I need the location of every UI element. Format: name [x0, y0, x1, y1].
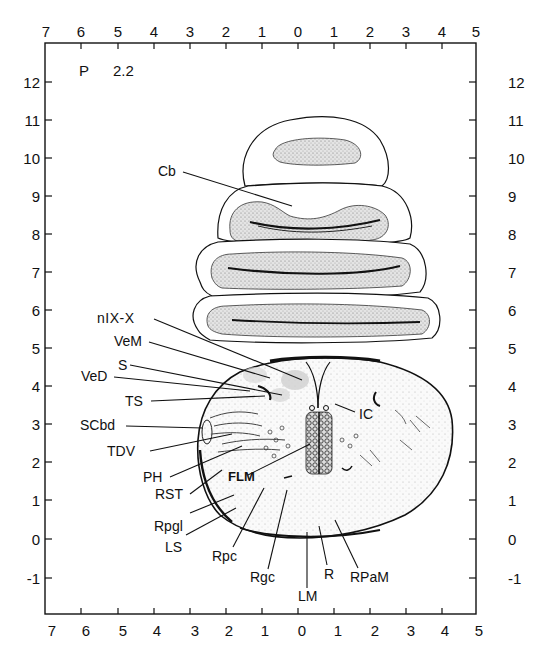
label-s: S [118, 358, 127, 372]
left-ticks [45, 82, 52, 578]
top-tick-label: 6 [77, 24, 85, 39]
top-tick-label: 5 [114, 24, 122, 39]
label-ts: TS [125, 394, 143, 408]
brainstem-section [198, 357, 453, 538]
bottom-tick-label: 5 [119, 623, 127, 638]
top-tick-label: 4 [150, 24, 158, 39]
right-tick-label: -1 [508, 571, 538, 586]
bottom-tick-label: 5 [475, 623, 483, 638]
bottom-tick-label: 3 [191, 623, 199, 638]
top-tick-label: 3 [186, 24, 194, 39]
bottom-tick-label: 0 [298, 623, 306, 638]
left-tick-label: 5 [10, 341, 40, 356]
leader-scbd [126, 426, 203, 428]
label-rpgl: Rpgl [154, 519, 183, 533]
top-tick-label: 7 [42, 24, 50, 39]
left-tick-label: 7 [10, 265, 40, 280]
left-tick-label: 3 [10, 417, 40, 432]
label-ved: VeD [81, 369, 107, 383]
top-tick-label: 2 [222, 24, 230, 39]
left-tick-label: 9 [10, 189, 40, 204]
top-tick-label: 1 [258, 24, 266, 39]
top-tick-label: 0 [294, 24, 302, 39]
plate-drawing [0, 0, 551, 668]
top-tick-label: 3 [402, 24, 410, 39]
left-tick-label: 10 [10, 151, 40, 166]
top-tick-label: 2 [366, 24, 374, 39]
bottom-tick-label: 1 [261, 623, 269, 638]
label-lm: LM [298, 589, 317, 603]
right-tick-label: 11 [508, 113, 538, 128]
left-tick-label: 4 [10, 379, 40, 394]
label-r: R [324, 567, 334, 581]
left-tick-label: 2 [10, 455, 40, 470]
label-ph: PH [143, 470, 162, 484]
label-cb: Cb [158, 164, 176, 178]
right-tick-label: 3 [508, 417, 538, 432]
right-tick-label: 2 [508, 455, 538, 470]
left-tick-label: 11 [10, 113, 40, 128]
bottom-ticks [81, 608, 442, 614]
left-tick-label: -1 [10, 571, 40, 586]
right-tick-label: 7 [508, 265, 538, 280]
atlas-plate: P 2.2 7 6 5 4 3 2 1 0 1 2 3 4 5 7 6 5 4 … [0, 0, 551, 668]
label-rgc: Rgc [250, 570, 275, 584]
bottom-tick-label: 1 [334, 623, 342, 638]
bottom-tick-label: 2 [225, 623, 233, 638]
label-ic: IC [359, 407, 373, 421]
cerebellum [193, 117, 440, 343]
label-tdv: TDV [107, 444, 135, 458]
right-tick-label: 8 [508, 227, 538, 242]
right-tick-label: 6 [508, 303, 538, 318]
left-tick-label: 6 [10, 303, 40, 318]
bottom-tick-label: 4 [441, 623, 449, 638]
bottom-tick-label: 3 [407, 623, 415, 638]
top-tick-label: 1 [330, 24, 338, 39]
right-tick-label: 10 [508, 151, 538, 166]
right-tick-label: 5 [508, 341, 538, 356]
right-tick-label: 9 [508, 189, 538, 204]
plate-number: 2.2 [113, 63, 134, 78]
label-rpam: RPaM [350, 570, 389, 584]
right-tick-label: 12 [508, 75, 538, 90]
right-ticks [469, 82, 476, 578]
top-tick-label: 5 [472, 24, 480, 39]
top-ticks [81, 43, 442, 49]
bottom-tick-label: 7 [48, 623, 56, 638]
left-tick-label: 12 [10, 75, 40, 90]
left-tick-label: 8 [10, 227, 40, 242]
right-tick-label: 1 [508, 493, 538, 508]
bottom-tick-label: 6 [82, 623, 90, 638]
label-n9-10: nIX-X [97, 311, 135, 325]
right-tick-label: 0 [508, 532, 538, 547]
plate-prefix: P [79, 63, 89, 78]
left-tick-label: 1 [10, 493, 40, 508]
label-vem: VeM [114, 334, 142, 348]
bottom-tick-label: 2 [371, 623, 379, 638]
top-tick-label: 4 [438, 24, 446, 39]
right-tick-label: 4 [508, 379, 538, 394]
label-ls: LS [165, 540, 182, 554]
label-scbd: SCbd [80, 418, 115, 432]
bottom-tick-label: 4 [153, 623, 161, 638]
label-rpc: Rpc [212, 549, 237, 563]
label-flm: FLM [228, 470, 255, 484]
left-tick-label: 0 [10, 532, 40, 547]
label-rst: RST [155, 487, 183, 501]
